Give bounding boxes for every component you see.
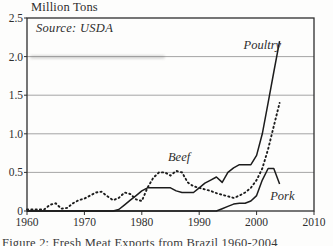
series-line-beef — [27, 103, 280, 210]
x-tick-label: 1980 — [130, 216, 153, 228]
source-note: Source: USDA — [36, 21, 113, 36]
series-label-pork: Pork — [269, 189, 295, 203]
series-label-poultry: Poultry — [243, 38, 282, 52]
x-tick-label: 2010 — [303, 216, 326, 228]
y-tick-label: 1.5 — [9, 89, 24, 101]
series-line-pork — [27, 169, 280, 212]
y-tick-label: 0.5 — [9, 166, 24, 178]
x-tick-label: 1970 — [73, 216, 96, 228]
x-tick-label: 1960 — [16, 216, 39, 228]
y-tick-label: 2.0 — [9, 51, 24, 63]
y-tick-label: 1.0 — [9, 128, 24, 140]
y-tick-label: 2.5 — [9, 12, 24, 24]
series-label-beef: Beef — [168, 150, 192, 164]
series-line-poultry — [27, 41, 280, 211]
x-tick-label: 2000 — [245, 216, 268, 228]
chart-figure: Million Tons 00.51.01.52.02.519601970198… — [0, 0, 333, 246]
figure-caption: Figure 2: Fresh Meat Exports from Brazil… — [2, 236, 333, 246]
x-tick-label: 1990 — [188, 216, 211, 228]
